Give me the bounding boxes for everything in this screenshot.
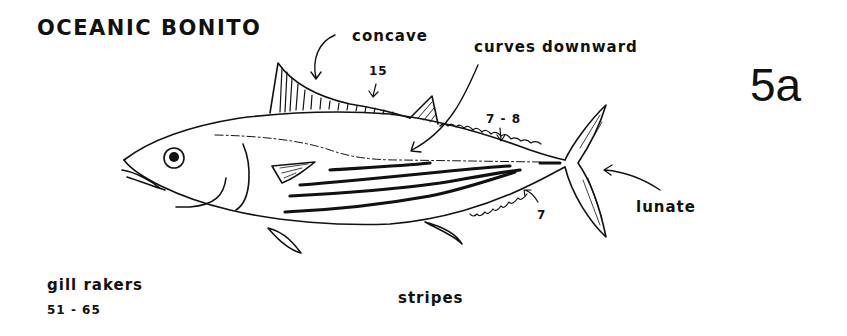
arrow-dorsal-spines (369, 84, 378, 97)
fish-illustration (0, 0, 847, 336)
anal-finlets (470, 194, 527, 216)
arrow-lateral-line (411, 65, 478, 152)
pelvic-fin (268, 228, 301, 253)
caudal-fin (565, 105, 606, 237)
lateral-line (215, 135, 540, 162)
anal-fin (425, 222, 462, 244)
arrow-lunate (604, 165, 660, 190)
arrow-concave (311, 35, 335, 79)
fish-body-outline (124, 112, 565, 160)
pectoral-fin (272, 162, 315, 183)
